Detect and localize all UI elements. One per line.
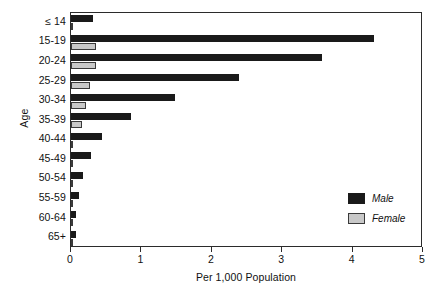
bar-female <box>71 200 73 207</box>
bar-male <box>71 94 175 101</box>
bar-male <box>71 231 76 238</box>
chart-legend: MaleFemale <box>348 190 405 230</box>
y-axis-tick-label: 60-64 <box>18 212 66 223</box>
bar-female <box>71 180 73 187</box>
bar-female <box>71 102 86 109</box>
y-axis-tick-label: 25-29 <box>18 75 66 86</box>
x-axis-tick-label: 1 <box>125 253 155 265</box>
legend-swatch-male <box>348 193 365 204</box>
bar-male <box>71 192 79 199</box>
y-axis-tick-label: 45-49 <box>18 153 66 164</box>
y-axis-tick-label: 50-54 <box>18 172 66 183</box>
bar-male <box>71 133 102 140</box>
x-axis-tick-mark <box>140 247 141 252</box>
bar-female <box>71 160 73 167</box>
bar-female <box>71 141 73 148</box>
legend-label: Male <box>372 193 394 204</box>
bar-male <box>71 113 131 120</box>
bar-female <box>71 82 90 89</box>
x-axis-title: Per 1,000 Population <box>70 271 422 283</box>
bar-male <box>71 211 76 218</box>
x-axis-tick-mark <box>70 247 71 252</box>
bar-female <box>71 23 73 30</box>
legend-item-male: Male <box>348 190 405 207</box>
bar-male <box>71 152 91 159</box>
bar-female <box>71 239 73 246</box>
y-axis-tick-label: 35-39 <box>18 114 66 125</box>
bar-male <box>71 15 93 22</box>
x-axis-tick-label: 2 <box>196 253 226 265</box>
legend-label: Female <box>372 213 405 224</box>
legend-swatch-female <box>348 213 365 224</box>
y-axis-tick-label: ≤ 14 <box>18 16 66 27</box>
x-axis-tick-mark <box>281 247 282 252</box>
x-axis-ticks: 012345 <box>70 247 422 269</box>
bar-male <box>71 35 374 42</box>
bar-male <box>71 172 83 179</box>
x-axis-tick-label: 0 <box>55 253 85 265</box>
bar-female <box>71 121 82 128</box>
bar-female <box>71 43 96 50</box>
x-axis-tick-mark <box>422 247 423 252</box>
bar-female <box>71 219 73 226</box>
x-axis-tick-mark <box>352 247 353 252</box>
chart-figure: Age ≤ 1415-1920-2425-2930-3435-3940-4445… <box>0 0 443 297</box>
x-axis-tick-label: 3 <box>266 253 296 265</box>
x-axis-tick-mark <box>211 247 212 252</box>
x-axis-tick-label: 5 <box>407 253 437 265</box>
bar-male <box>71 74 239 81</box>
y-axis-tick-label: 30-34 <box>18 94 66 105</box>
y-axis-tick-label: 20-24 <box>18 55 66 66</box>
legend-item-female: Female <box>348 210 405 227</box>
y-axis-tick-label: 15-19 <box>18 35 66 46</box>
y-axis-tick-label: 65+ <box>18 231 66 242</box>
y-axis-tick-labels: ≤ 1415-1920-2425-2930-3435-3940-4445-495… <box>18 12 66 247</box>
y-axis-tick-label: 40-44 <box>18 133 66 144</box>
bar-male <box>71 54 322 61</box>
bar-female <box>71 62 96 69</box>
x-axis-tick-label: 4 <box>337 253 367 265</box>
y-axis-tick-label: 55-59 <box>18 192 66 203</box>
